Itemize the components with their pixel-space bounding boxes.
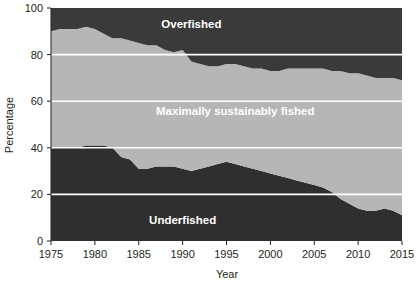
stacked-area-chart: 020406080100 197519801985199019952000200… — [0, 0, 420, 284]
x-tick-label-2005: 2005 — [302, 248, 326, 260]
x-tick-label-1990: 1990 — [170, 248, 194, 260]
area-bands — [51, 8, 402, 241]
band-label-underfished: Underfished — [149, 214, 216, 226]
band-label-overfished: Overfished — [161, 18, 221, 30]
y-tick-label-40: 40 — [31, 142, 43, 154]
x-tick-label-2000: 2000 — [258, 248, 282, 260]
x-axis-title: Year — [216, 268, 239, 280]
y-tick-label-80: 80 — [31, 49, 43, 61]
x-tick-label-1980: 1980 — [83, 248, 107, 260]
y-tick-label-20: 20 — [31, 188, 43, 200]
x-tick-label-2010: 2010 — [346, 248, 370, 260]
y-axis-title: Percentage — [3, 97, 15, 153]
chart-figure: 020406080100 197519801985199019952000200… — [0, 0, 420, 284]
y-tick-label-0: 0 — [37, 235, 43, 247]
x-tick-label-1985: 1985 — [127, 248, 151, 260]
x-tick-label-1995: 1995 — [214, 248, 238, 260]
x-tick-label-1975: 1975 — [39, 248, 63, 260]
x-tick-label-2015: 2015 — [390, 248, 414, 260]
y-tick-label-60: 60 — [31, 95, 43, 107]
x-tick-labels: 197519801985199019952000200520102015 — [39, 248, 414, 260]
band-label-maximally-sustainably-fished: Maximally sustainably fished — [156, 105, 315, 117]
y-tick-label-100: 100 — [25, 2, 43, 14]
